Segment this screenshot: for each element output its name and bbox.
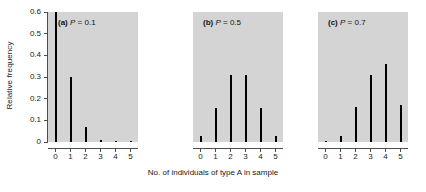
y-axis: 00.10.20.30.40.50.6 xyxy=(18,12,48,142)
panel-b: (b) P = 0.5012345 xyxy=(193,12,283,142)
x-axis-tick-label: 0 xyxy=(323,153,327,161)
bar xyxy=(340,136,342,143)
x-axis-b: 012345 xyxy=(193,142,283,164)
panel-param-value-b: = 0.5 xyxy=(221,18,241,27)
bar xyxy=(245,75,247,142)
bar xyxy=(100,140,102,142)
x-axis-tick-label: 1 xyxy=(68,153,72,161)
bar xyxy=(325,141,327,142)
x-axis-tick-label: 4 xyxy=(258,153,262,161)
y-axis-tick-label: 0.4 xyxy=(30,51,41,59)
bar xyxy=(115,141,117,142)
y-axis-tick-label: 0.2 xyxy=(30,95,41,103)
figure-binomial-distributions: Relative frequency 00.10.20.30.40.50.6 (… xyxy=(0,0,426,192)
panel-letter-b: (b) xyxy=(203,18,213,27)
panel-c: (c) P = 0.7012345 xyxy=(318,12,408,142)
bar xyxy=(230,75,232,142)
y-axis-label-text: Relative frequency xyxy=(5,41,14,109)
x-axis-tick-label: 5 xyxy=(128,153,132,161)
x-axis-c: 012345 xyxy=(318,142,408,164)
bar xyxy=(370,75,372,142)
y-axis-tick-label: 0.1 xyxy=(30,116,41,124)
plot-area-c xyxy=(318,12,408,142)
bar xyxy=(200,136,202,143)
bar xyxy=(55,12,57,142)
x-axis-tick-label: 4 xyxy=(383,153,387,161)
panel-letter-a: (a) xyxy=(58,18,68,27)
x-axis-label: No. of individuals of type A in sample xyxy=(0,168,426,177)
bar xyxy=(385,64,387,142)
panel-title-b: (b) P = 0.5 xyxy=(203,18,241,27)
panel-letter-c: (c) xyxy=(328,18,338,27)
panel-a: (a) P = 0.1012345 xyxy=(48,12,138,142)
x-axis-tick-label: 3 xyxy=(243,153,247,161)
panel-title-a: (a) P = 0.1 xyxy=(58,18,96,27)
x-axis-tick-label: 0 xyxy=(53,153,57,161)
bar xyxy=(130,141,132,142)
x-axis-tick-label: 3 xyxy=(98,153,102,161)
x-axis-label-text: No. of individuals of type A in sample xyxy=(148,168,278,177)
x-axis-spine xyxy=(318,148,408,149)
y-axis-tick-label: 0.5 xyxy=(30,30,41,38)
y-axis-tick-label: 0.6 xyxy=(30,8,41,16)
x-axis-tick-label: 5 xyxy=(273,153,277,161)
y-axis-label: Relative frequency xyxy=(0,0,18,150)
bar xyxy=(275,136,277,143)
bar xyxy=(400,105,402,142)
x-axis-tick-label: 1 xyxy=(213,153,217,161)
x-axis-tick-label: 0 xyxy=(198,153,202,161)
x-axis-tick-label: 1 xyxy=(338,153,342,161)
plot-area-a xyxy=(48,12,138,142)
panel-param-value-c: = 0.7 xyxy=(345,18,365,27)
x-axis-tick-label: 4 xyxy=(113,153,117,161)
y-axis-tick-label: 0.3 xyxy=(30,73,41,81)
x-axis-spine xyxy=(48,148,138,149)
plot-area-b xyxy=(193,12,283,142)
x-axis-tick-label: 3 xyxy=(368,153,372,161)
panel-param-value-a: = 0.1 xyxy=(75,18,95,27)
bar xyxy=(70,77,72,142)
x-axis-spine xyxy=(193,148,283,149)
x-axis-tick-label: 5 xyxy=(398,153,402,161)
bar xyxy=(85,127,87,142)
bar xyxy=(355,107,357,142)
y-axis-tick-label: 0 xyxy=(37,138,41,146)
x-axis-a: 012345 xyxy=(48,142,138,164)
x-axis-tick-label: 2 xyxy=(228,153,232,161)
bar xyxy=(215,108,217,142)
bar xyxy=(260,108,262,142)
panel-title-c: (c) P = 0.7 xyxy=(328,18,366,27)
x-axis-tick-label: 2 xyxy=(83,153,87,161)
x-axis-tick-label: 2 xyxy=(353,153,357,161)
